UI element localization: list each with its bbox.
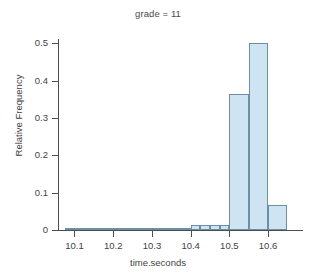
x-axis-label: time.seconds [0, 257, 316, 268]
x-tick-label: 10.1 [65, 240, 84, 251]
histogram-bar [104, 228, 114, 230]
x-tick-label: 10.2 [104, 240, 123, 251]
histogram-bar [210, 225, 220, 230]
y-tick-mark [52, 118, 58, 119]
x-tick-mark [268, 231, 269, 237]
y-tick-label: 0.1 [35, 187, 48, 198]
histogram-figure: grade = 11 00.10.20.30.40.5 10.110.210.3… [0, 0, 316, 280]
y-tick-label: 0 [43, 224, 48, 235]
x-tick-label: 10.6 [259, 240, 278, 251]
y-tick-label: 0.4 [35, 75, 48, 86]
y-tick-mark [52, 230, 58, 231]
chart-title: grade = 11 [0, 8, 316, 19]
x-tick-label: 10.3 [143, 240, 162, 251]
x-tick-mark [152, 231, 153, 237]
x-axis-line [59, 230, 303, 231]
x-tick-mark [229, 231, 230, 237]
x-tick-label: 10.5 [220, 240, 239, 251]
y-tick-label: 0.3 [35, 112, 48, 123]
x-tick-label: 10.4 [181, 240, 200, 251]
histogram-bar [229, 94, 248, 230]
histogram-bar [181, 228, 191, 230]
histogram-bar [152, 228, 162, 230]
x-tick-mark [74, 231, 75, 237]
x-tick-mark [113, 231, 114, 237]
y-tick-mark [52, 155, 58, 156]
histogram-bar [249, 43, 268, 230]
histogram-bar [84, 228, 94, 230]
y-axis-label: Relative Frequency [13, 46, 24, 186]
histogram-bar [65, 228, 75, 230]
y-tick-label: 0.5 [35, 37, 48, 48]
histogram-bar [94, 228, 104, 230]
histogram-bar [142, 228, 152, 230]
histogram-bar [74, 228, 84, 230]
y-tick-mark [52, 81, 58, 82]
histogram-bar [113, 228, 123, 230]
histogram-bar [200, 225, 210, 230]
histogram-bars [59, 36, 301, 230]
x-tick-mark [191, 231, 192, 237]
plot-area [59, 36, 301, 230]
histogram-bar [162, 228, 172, 230]
y-tick-mark [52, 43, 58, 44]
histogram-bar [268, 205, 287, 230]
y-tick-label: 0.2 [35, 149, 48, 160]
y-tick-mark [52, 193, 58, 194]
histogram-bar [133, 228, 143, 230]
histogram-bar [191, 225, 201, 230]
histogram-bar [220, 225, 230, 230]
histogram-bar [171, 228, 181, 230]
histogram-bar [123, 228, 133, 230]
